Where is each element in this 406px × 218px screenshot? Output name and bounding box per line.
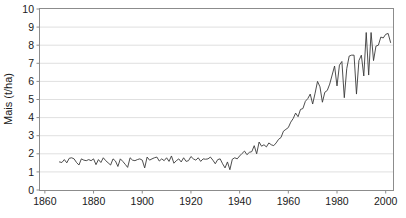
x-tick-label: 1880 bbox=[82, 195, 106, 207]
x-tick-label: 1920 bbox=[179, 195, 203, 207]
x-tick-label: 1960 bbox=[277, 195, 301, 207]
gridlines bbox=[40, 27, 393, 172]
x-tick-label: 1980 bbox=[325, 195, 349, 207]
x-axis-ticks: 18601880190019201940196019802000 bbox=[33, 190, 397, 207]
y-tick-label: 2 bbox=[28, 147, 34, 159]
x-tick-label: 1900 bbox=[131, 195, 155, 207]
y-tick-label: 7 bbox=[28, 57, 34, 69]
y-tick-label: 9 bbox=[28, 21, 34, 33]
y-tick-label: 5 bbox=[28, 93, 34, 105]
series-line-mais bbox=[59, 33, 390, 170]
x-tick-label: 1940 bbox=[228, 195, 252, 207]
y-tick-label: 0 bbox=[28, 184, 34, 196]
x-tick-label: 2000 bbox=[374, 195, 398, 207]
y-axis-ticks: 012345678910 bbox=[22, 3, 40, 196]
y-tick-label: 4 bbox=[28, 111, 34, 123]
y-tick-label: 6 bbox=[28, 75, 34, 87]
y-axis-title: Mais (t/ha) bbox=[2, 73, 14, 125]
x-tick-label: 1860 bbox=[33, 195, 57, 207]
chart-canvas: 012345678910 186018801900192019401960198… bbox=[0, 0, 406, 218]
y-tick-label: 1 bbox=[28, 166, 34, 178]
y-tick-label: 3 bbox=[28, 129, 34, 141]
maize-yield-chart: 012345678910 186018801900192019401960198… bbox=[0, 0, 406, 218]
y-tick-label: 8 bbox=[28, 39, 34, 51]
y-tick-label: 10 bbox=[22, 3, 34, 15]
